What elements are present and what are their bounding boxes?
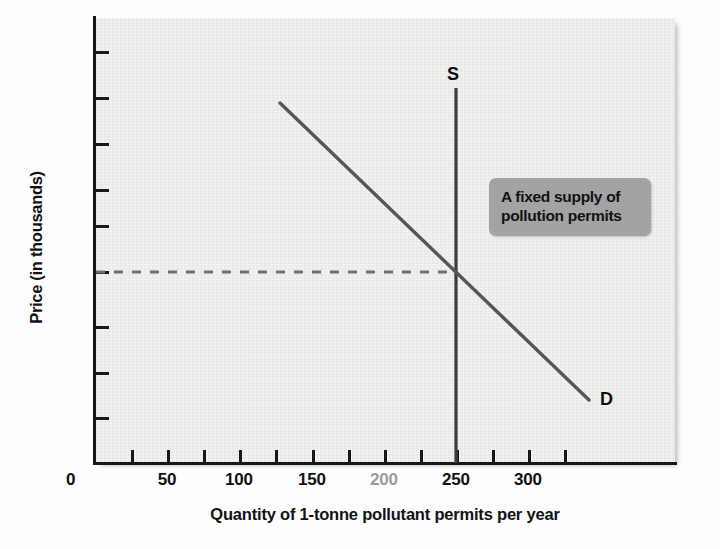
y-tick-12p5 [96,225,109,228]
x-tick-label-100: 100 [209,470,269,490]
x-tick-75 [203,450,206,463]
x-tick-50 [167,450,170,463]
demand-curve-label: D [600,389,613,410]
x-tick-225 [420,450,423,463]
y-axis-line [93,16,96,465]
y-tick-2p5 [96,417,109,420]
x-tick-300 [528,450,531,463]
y-tick-7p5 [96,326,109,329]
y-tick-20 [96,97,109,100]
plot-panel [95,18,675,463]
annotation-line-2: pollution permits [501,206,641,225]
y-tick-17p5 [96,143,109,146]
x-tick-175 [348,450,351,463]
y-tick-22p5 [96,51,109,54]
x-axis-title: Quantity of 1-tonne pollutant permits pe… [95,505,675,524]
x-tick-label-200: 200 [354,470,414,490]
y-tick-15 [96,189,109,192]
x-tick-150 [312,450,315,463]
y-tick-0 [96,462,109,465]
panel-paper-texture [95,18,675,463]
x-tick-275 [492,450,495,463]
x-tick-25 [131,450,134,463]
x-tick-250 [456,450,459,463]
x-tick-200 [384,450,387,463]
supply-curve-label: S [447,64,459,85]
x-tick-label-250: 250 [426,470,486,490]
x-tick-125 [275,450,278,463]
x-tick-label-50: 50 [137,470,197,490]
x-tick-100 [239,450,242,463]
economics-figure: $20 15 10 5 50 100 150 200 250 300 0 Pri… [0,0,720,549]
y-tick-5 [96,372,109,375]
x-tick-label-150: 150 [282,470,342,490]
y-axis-title: Price (in thousands) [27,138,46,358]
y-tick-10 [96,271,109,274]
x-tick-325 [564,450,567,463]
x-tick-label-300: 300 [498,470,558,490]
annotation-line-1: A fixed supply of [501,187,641,206]
fixed-supply-annotation: A fixed supply of pollution permits [489,178,651,236]
origin-label: 0 [66,470,75,490]
